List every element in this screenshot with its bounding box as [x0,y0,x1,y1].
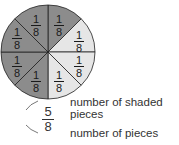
fraction-five-eighths: 5 8 [42,106,54,133]
sector-label-8: 18 [30,14,42,37]
sector-label-5: 18 [30,70,42,93]
denominator-label: number of pieces [70,127,158,139]
numerator-label: number of shaded pieces [70,96,163,120]
sector-label-7: 18 [11,27,23,50]
pointer-denominator [26,125,38,133]
sector-label-6: 18 [11,55,23,78]
fraction-numerator: 5 [42,106,54,118]
sector-label-4: 18 [53,70,65,93]
sector-label-3: 18 [73,55,85,78]
fraction-circle [0,0,179,145]
sector-label-2: 18 [73,30,85,53]
pointer-numerator [26,101,38,110]
sector-label-1: 18 [53,14,65,37]
fraction-denominator: 8 [42,121,54,133]
